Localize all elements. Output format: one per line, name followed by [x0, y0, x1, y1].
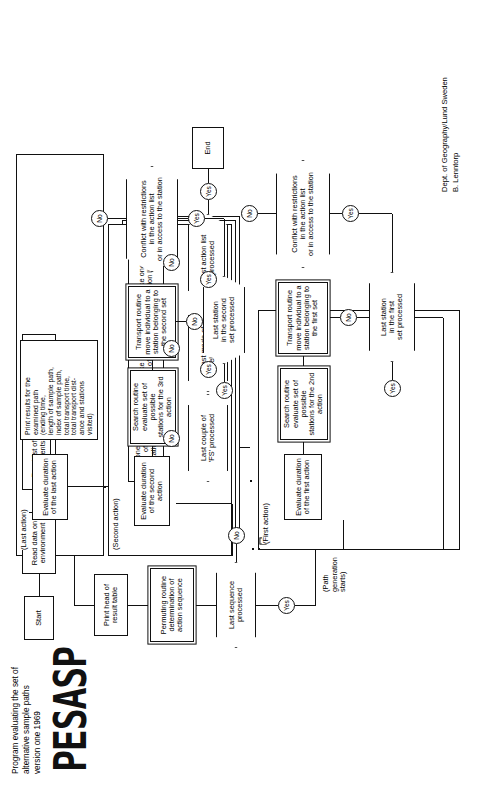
decision-last-sequence: Last sequence processed: [216, 562, 256, 648]
diagram-canvas: Program evaluating the set of alternativ…: [0, 0, 483, 788]
decision-last-station-first: Last station in the first set processed: [369, 272, 415, 362]
logo-pesasp: PESASP: [44, 647, 97, 772]
branch-yes-last-action-list: Yes: [200, 183, 217, 200]
decision-last-station-first-label: Last station in the first set processed: [369, 272, 415, 362]
decision-last-fs: Last couple of 'FS' processed: [188, 394, 228, 482]
branch-yes-conflict-first: Yes: [342, 205, 359, 222]
node-evaluate-second-action: Evaluate duration of the second action: [134, 456, 170, 526]
branch-no-last-mode: No: [163, 340, 180, 357]
node-end: End: [192, 127, 224, 169]
branch-no-last-station-first: No: [340, 309, 357, 326]
branch-no-last-action-list: No: [163, 254, 180, 271]
node-print-results: Print results for the examined path (end…: [20, 340, 98, 440]
node-print-head: Print head of result table: [94, 574, 128, 636]
branch-yes-last-mode: Yes: [200, 271, 217, 288]
page-title: Program evaluating the set of alternativ…: [10, 667, 43, 774]
branch-no-last-sequence: No: [228, 527, 245, 544]
branch-no-conflict-second: No: [91, 210, 108, 227]
decision-conflict-first-label: Conflict with restrictions in the action…: [276, 160, 330, 268]
node-start: Start: [24, 596, 54, 640]
node-evaluate-first-action: Evaluate duration of the first action: [284, 454, 322, 520]
label-last-action: (Last action): [20, 509, 29, 550]
node-transport-first-action: Transport routine move individual to a s…: [278, 282, 328, 354]
decision-conflict-first: Conflict with restrictions in the action…: [276, 160, 330, 268]
credit-text: Dept. of Geography/Lund Sweden B. Lennto…: [440, 77, 461, 192]
decision-last-sequence-label: Last sequence processed: [216, 562, 256, 648]
node-evaluate-last-action: Evaluate duration of the last action: [32, 454, 68, 520]
branch-yes-conflict-second: Yes: [188, 210, 205, 227]
decision-last-fs-label: Last couple of 'FS' processed: [188, 394, 228, 482]
branch-yes-last-fs: Yes: [200, 361, 217, 378]
branch-no-last-station-second: No: [186, 313, 203, 330]
flowchart-sheet: Program evaluating the set of alternativ…: [0, 0, 483, 788]
decision-last-station-second-label: Last station in the second set processed: [203, 276, 245, 364]
label-first-action: (First action): [262, 503, 271, 544]
branch-no-last-fs: No: [163, 430, 180, 447]
branch-no-conflict-first: No: [241, 205, 258, 222]
note-path-generation: (Path generation starts): [322, 557, 348, 592]
branch-yes-last-station-second: Yes: [216, 382, 233, 399]
node-permuting-routine: Permuting routine determination of actio…: [150, 568, 194, 642]
node-search-first-action: Search routine evaluate set of possible …: [280, 368, 328, 440]
decision-last-station-second: Last station in the second set processed: [203, 276, 245, 364]
branch-yes-last-station-first: Yes: [384, 380, 401, 397]
branch-yes-last-sequence: Yes: [278, 597, 295, 614]
label-second-action: (Second action): [112, 498, 121, 550]
